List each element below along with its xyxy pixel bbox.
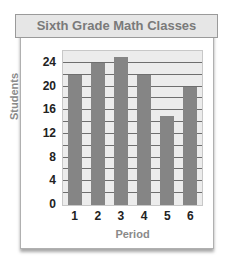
gridline (63, 86, 202, 87)
bar-period-4 (137, 75, 151, 205)
x-tick-label: 2 (91, 209, 105, 223)
x-tick-label: 5 (160, 209, 174, 223)
gridline (63, 168, 202, 169)
gridline (63, 157, 202, 158)
gridline (63, 97, 202, 98)
y-tick-label: 4 (32, 173, 56, 187)
x-tick-label: 6 (183, 209, 197, 223)
gridline (63, 62, 202, 63)
y-tick-label: 20 (32, 79, 56, 93)
gridline (63, 180, 202, 181)
y-tick-label: 24 (32, 55, 56, 69)
gridline (63, 133, 202, 134)
x-tick-label: 1 (68, 209, 82, 223)
x-axis-label: Period (62, 228, 203, 240)
y-tick-label: 0 (32, 197, 56, 211)
x-tick-label: 3 (114, 209, 128, 223)
y-axis-label: Students (8, 73, 20, 120)
gridline (63, 121, 202, 122)
gridline (63, 109, 202, 110)
y-tick-label: 12 (32, 126, 56, 140)
y-tick-label: 8 (32, 150, 56, 164)
gridline (63, 145, 202, 146)
bar-period-5 (160, 116, 174, 205)
plot-area (62, 50, 203, 206)
bar-period-1 (68, 75, 82, 205)
x-tick-label: 4 (137, 209, 151, 223)
chart-title: Sixth Grade Math Classes (15, 14, 218, 38)
gridline (63, 74, 202, 75)
bar-period-3 (114, 57, 128, 205)
bar-period-2 (91, 63, 105, 205)
gridline (63, 192, 202, 193)
bar-period-6 (183, 87, 197, 205)
y-tick-label: 16 (32, 102, 56, 116)
